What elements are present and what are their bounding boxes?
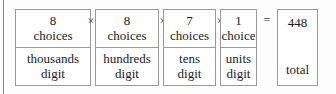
place-name-hundreds: hundreds <box>103 52 151 66</box>
place-word-units: digit <box>227 67 251 81</box>
place-word-thousands: digit <box>41 67 65 81</box>
choice-unit-units: choice <box>222 29 256 43</box>
factor-box-units: 1 choice units digit <box>220 9 257 86</box>
choice-count-tens: 7 <box>186 14 193 28</box>
choice-unit-thousands: choices <box>34 29 73 43</box>
place-name-tens: tens <box>179 52 200 66</box>
choice-count-units: 1 <box>235 14 242 28</box>
choice-count-thousands: 8 <box>50 14 57 28</box>
choice-count-cell-units: 1 choice <box>221 10 256 48</box>
choice-count-cell-tens: 7 choices <box>164 10 215 48</box>
choice-unit-tens: choices <box>170 29 209 43</box>
factor-box-thousands: 8 choices thousands digit <box>15 9 91 86</box>
place-word-hundreds: digit <box>115 67 139 81</box>
diagram-canvas: 8 choices thousands digit × 8 choices hu… <box>0 0 336 94</box>
choice-unit-hundreds: choices <box>108 29 147 43</box>
choice-count-cell-hundreds: 8 choices <box>96 10 158 48</box>
place-label-cell-hundreds: hundreds digit <box>96 48 158 85</box>
factor-box-tens: 7 choices tens digit <box>163 9 216 86</box>
result-label: total <box>286 62 309 78</box>
place-label-cell-thousands: thousands digit <box>16 48 90 85</box>
result-value: 448 <box>288 15 308 31</box>
page-margin-rule <box>3 0 4 94</box>
equals-icon: = <box>261 13 273 27</box>
choice-count-hundreds: 8 <box>124 14 131 28</box>
place-name-thousands: thousands <box>27 52 79 66</box>
choice-count-cell-thousands: 8 choices <box>16 10 90 48</box>
place-word-tens: digit <box>178 67 202 81</box>
place-label-cell-units: units digit <box>221 48 256 85</box>
place-name-units: units <box>226 52 251 66</box>
result-box-total: 448 total <box>277 9 318 86</box>
place-label-cell-tens: tens digit <box>164 48 215 85</box>
factor-box-hundreds: 8 choices hundreds digit <box>95 9 159 86</box>
